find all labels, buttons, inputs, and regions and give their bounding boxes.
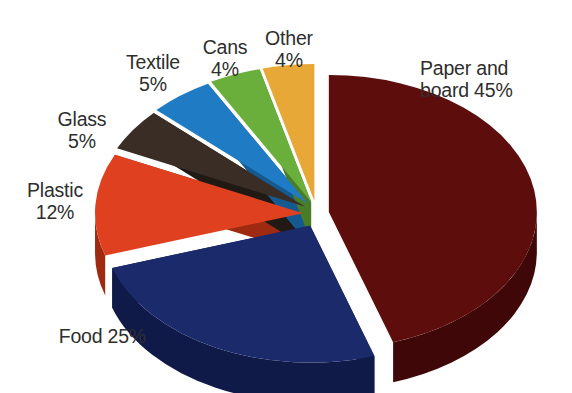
slice-label-plastic: Plastic 12% [10, 180, 100, 224]
slice-label-cans: Cans 4% [190, 37, 260, 81]
slice-label-other: Other 4% [253, 28, 325, 72]
slice-label-paper-and-board: Paper and board 45% [420, 58, 565, 102]
pie-chart: Paper and board 45% Other 4% Cans 4% Tex… [0, 0, 572, 393]
slice-label-food: Food 25% [20, 326, 146, 348]
slice-label-textile: Textile 5% [112, 52, 194, 96]
slice-label-glass: Glass 5% [40, 109, 124, 153]
